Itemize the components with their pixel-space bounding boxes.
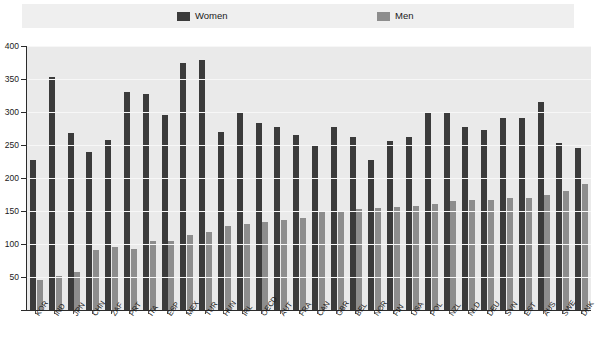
y-axis-tick xyxy=(21,145,26,146)
gridline xyxy=(27,277,591,278)
bar-women-aut xyxy=(274,127,280,310)
y-axis-label: 50 xyxy=(0,273,19,282)
gridline xyxy=(27,211,591,212)
bar-men-nld xyxy=(469,200,475,310)
gridline xyxy=(27,112,591,113)
x-axis-labels: KORINDJPNCHNZAFPRTITAESPMEXTURHUNIRLOECD… xyxy=(26,313,591,348)
bar-men-can xyxy=(319,211,325,310)
bar-women-hun xyxy=(218,132,224,310)
bar-men-irl xyxy=(244,224,250,310)
bar-men-est xyxy=(526,198,532,310)
legend-entry-women: Women xyxy=(177,11,228,21)
y-axis-label: 250 xyxy=(0,141,19,150)
bar-women-deu xyxy=(481,130,487,310)
bar-men-pol xyxy=(432,204,438,310)
bar-women-zaf xyxy=(105,140,111,310)
gridline xyxy=(27,178,591,179)
chart-legend: Women Men xyxy=(22,4,574,28)
bar-men-usa xyxy=(413,206,419,310)
bar-women-swe xyxy=(556,143,562,310)
legend-label-men: Men xyxy=(395,11,413,21)
bar-men-nor xyxy=(375,208,381,310)
y-axis-tick xyxy=(21,178,26,179)
y-axis-label: 100 xyxy=(0,240,19,249)
bar-men-gbr xyxy=(338,212,344,310)
bar-women-dnk xyxy=(575,148,581,310)
plot-area xyxy=(26,46,591,310)
bar-women-bel xyxy=(350,137,356,310)
y-axis-label: 400 xyxy=(0,42,19,51)
bar-men-oecd xyxy=(262,222,268,310)
legend-label-women: Women xyxy=(195,11,228,21)
bar-women-mex xyxy=(180,63,186,310)
y-axis-label: 350 xyxy=(0,75,19,84)
chart-root: Women Men 40035030025020015010050 KORIND… xyxy=(0,0,597,348)
bar-women-est xyxy=(519,118,525,310)
bar-women-fra xyxy=(293,135,299,310)
bar-men-dnk xyxy=(582,184,588,310)
bar-men-fin xyxy=(394,207,400,310)
bar-men-nzl xyxy=(450,201,456,310)
bar-women-nor xyxy=(368,160,374,310)
y-axis-tick xyxy=(21,310,26,311)
bar-women-svn xyxy=(500,118,506,310)
bar-men-aut xyxy=(281,220,287,310)
bar-women-aus xyxy=(538,102,544,310)
bar-women-fin xyxy=(387,141,393,310)
legend-entry-men: Men xyxy=(377,11,413,21)
y-axis-label: 150 xyxy=(0,207,19,216)
bar-men-bel xyxy=(356,209,362,310)
bar-men-ita xyxy=(150,241,156,310)
square-swatch-icon xyxy=(177,12,190,21)
y-axis-tick xyxy=(21,211,26,212)
bar-women-nld xyxy=(462,127,468,310)
bar-women-gbr xyxy=(331,127,337,310)
y-axis-label: 300 xyxy=(0,108,19,117)
y-axis-tick xyxy=(21,277,26,278)
bar-women-chn xyxy=(86,152,92,310)
bar-women-oecd xyxy=(256,123,262,310)
bar-women-can xyxy=(312,145,318,310)
bar-women-tur xyxy=(199,60,205,310)
y-axis-tick xyxy=(21,46,26,47)
bar-men-svn xyxy=(507,198,513,310)
bar-men-deu xyxy=(488,200,494,310)
bar-men-hun xyxy=(225,226,231,310)
bar-men-fra xyxy=(300,218,306,310)
gridline xyxy=(27,79,591,80)
square-swatch-icon xyxy=(377,12,390,21)
gridline xyxy=(27,244,591,245)
y-axis-tick xyxy=(21,79,26,80)
y-axis-label: 200 xyxy=(0,174,19,183)
y-axis-tick xyxy=(21,112,26,113)
y-axis-labels: 40035030025020015010050 xyxy=(0,0,19,348)
gridline xyxy=(27,145,591,146)
bar-women-usa xyxy=(406,137,412,310)
bar-women-kor xyxy=(30,160,36,310)
bar-men-aus xyxy=(544,195,550,310)
gridline xyxy=(27,46,591,47)
y-axis-tick xyxy=(21,244,26,245)
bar-men-swe xyxy=(563,191,569,310)
bar-women-jpn xyxy=(68,133,74,310)
